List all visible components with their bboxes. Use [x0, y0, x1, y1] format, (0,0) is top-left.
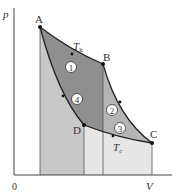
svg-text:3: 3: [118, 124, 123, 134]
y-axis-label: p: [2, 8, 9, 20]
midpoint-AD-dot: [62, 95, 65, 98]
origin-label: 0: [12, 181, 17, 192]
point-D-label: D: [73, 124, 81, 136]
x-axis-label: V: [146, 180, 154, 192]
midpoint-DC-dot: [112, 135, 115, 138]
point-C-label: C: [150, 128, 157, 140]
hot-temp-label: Th: [73, 40, 83, 54]
region-label-3: 3: [115, 123, 126, 134]
point-A-label: A: [35, 13, 43, 25]
region-label-4: 4: [72, 94, 83, 105]
region-label-1: 1: [66, 62, 77, 73]
midpoint-BC-dot: [119, 101, 122, 104]
point-A-dot: [38, 25, 42, 29]
pv-diagram: 1 4 2 3 A B C D Th Tc p V 0: [0, 0, 183, 196]
svg-text:2: 2: [110, 106, 115, 116]
region-2-3-mid: [103, 64, 152, 143]
point-C-dot: [150, 141, 154, 145]
midpoint-AB-dot: [71, 53, 74, 56]
point-D-dot: [82, 123, 86, 127]
svg-text:1: 1: [69, 63, 74, 73]
svg-text:4: 4: [75, 95, 80, 105]
region-label-2: 2: [107, 105, 118, 116]
point-B-label: B: [103, 51, 110, 63]
